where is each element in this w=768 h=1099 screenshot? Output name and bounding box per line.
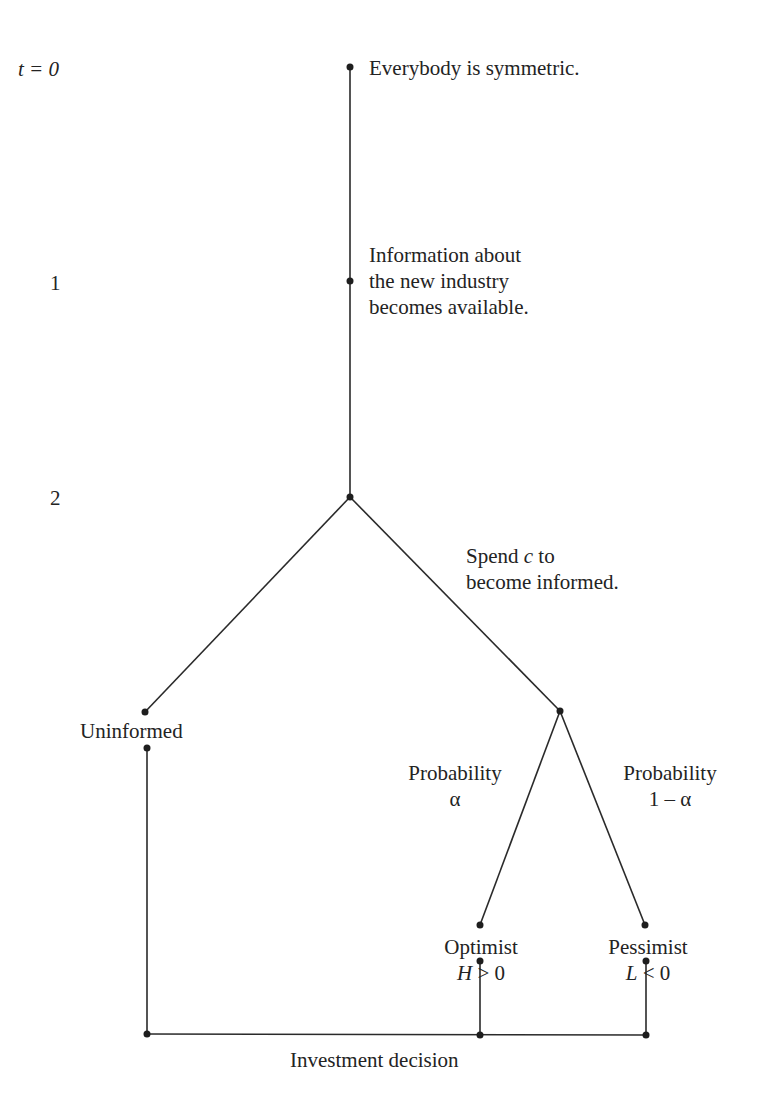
spend-pre: Spend [466, 544, 524, 568]
label-start: Everybody is symmetric. [369, 55, 580, 81]
label-information: Information about the new industry becom… [369, 242, 529, 320]
optimist-var: H [457, 961, 472, 985]
node-branch [347, 494, 354, 501]
spend-var: c [524, 544, 533, 568]
pessimist-cond: < 0 [637, 961, 670, 985]
node-informed [557, 708, 564, 715]
label-uninformed: Uninformed [80, 718, 183, 744]
time-label-t2: 2 [50, 485, 61, 511]
node-invest-left [144, 1031, 151, 1038]
time-t0-text: t = 0 [18, 57, 59, 81]
node-start [347, 64, 354, 71]
node-information [347, 278, 354, 285]
label-investment-decision: Investment decision [290, 1047, 459, 1073]
label-pessimist: Pessimist L < 0 [588, 934, 708, 986]
edge-to-uninformed [145, 497, 350, 712]
label-prob-one-minus-alpha: Probability 1 – α [608, 760, 732, 812]
label-prob-alpha: Probability α [395, 760, 515, 812]
node-invest-mid [477, 1032, 484, 1039]
edge-to-optimist [480, 711, 560, 925]
optimist-text: Optimist [444, 935, 518, 959]
investment-line [147, 1034, 646, 1035]
time-label-t1: 1 [50, 270, 61, 296]
node-uninformed-low [144, 745, 151, 752]
pessimist-text: Pessimist [608, 935, 687, 959]
time-label-t0: t = 0 [18, 56, 59, 82]
pessimist-var: L [626, 961, 638, 985]
optimist-cond: > 0 [472, 961, 505, 985]
node-uninformed [142, 709, 149, 716]
edge-to-pessimist [560, 711, 645, 925]
spend-post: to [533, 544, 555, 568]
node-pessimist [642, 922, 649, 929]
edge-to-informed [350, 497, 560, 711]
spend-line2: become informed. [466, 570, 619, 594]
node-optimist [477, 922, 484, 929]
node-invest-right [643, 1032, 650, 1039]
label-spend: Spend c to become informed. [466, 543, 619, 595]
label-optimist: Optimist H > 0 [420, 934, 542, 986]
